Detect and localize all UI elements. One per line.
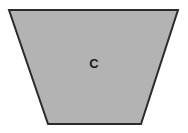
shape-label-c: C <box>0 57 188 70</box>
figure-canvas: C <box>0 0 188 133</box>
